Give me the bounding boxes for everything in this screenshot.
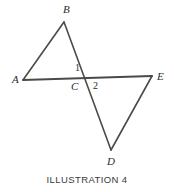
segment-de	[111, 76, 152, 150]
vertex-label-a: A	[12, 74, 19, 85]
vertex-label-b: B	[63, 4, 70, 15]
segment-ae	[23, 76, 152, 80]
angle-label-1: 1	[75, 63, 80, 73]
angle-label-2: 2	[93, 81, 98, 91]
vertex-label-c: C	[71, 81, 78, 92]
illustration-figure: A B C D E 1 2 ILLUSTRATION 4	[0, 0, 174, 192]
segment-ab	[23, 22, 64, 80]
geometry-diagram	[0, 0, 174, 192]
vertex-label-e: E	[157, 71, 164, 82]
illustration-caption: ILLUSTRATION 4	[0, 174, 174, 185]
vertex-label-d: D	[107, 156, 115, 167]
